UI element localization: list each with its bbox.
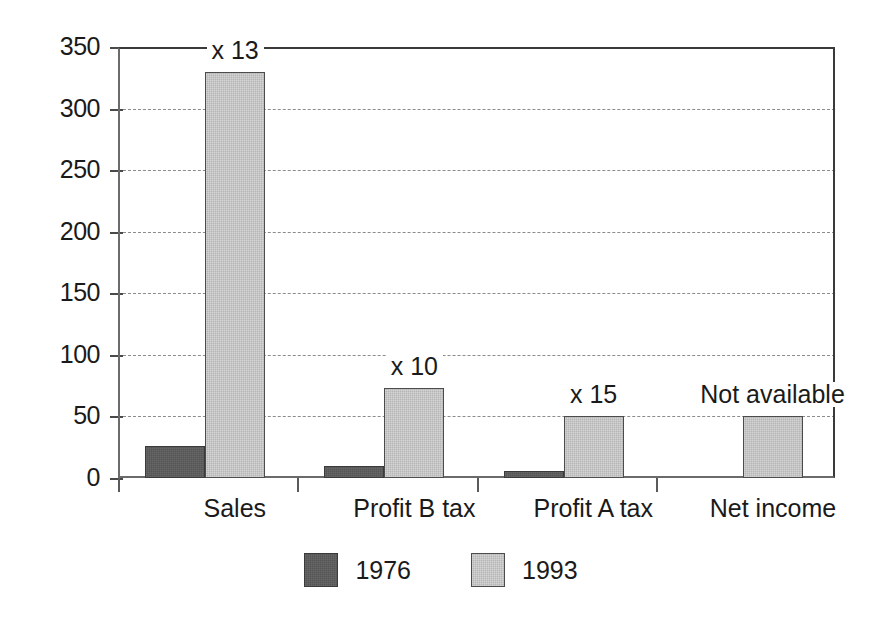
y-axis-tick-label: 0 <box>28 465 100 490</box>
y-axis-tick-label: 50 <box>28 403 100 428</box>
bar-1976-profit-a-tax <box>504 471 564 478</box>
bar-annotation: x 15 <box>565 382 622 407</box>
x-axis-label-net-income: Net income <box>710 494 836 522</box>
bar-1993-sales <box>205 72 265 478</box>
bar-1976-sales <box>145 446 205 478</box>
x-axis-tick <box>297 478 299 492</box>
legend-item-1993: 1993 <box>471 553 578 587</box>
bar-1993-profit-a-tax <box>564 416 624 478</box>
y-axis-tick-label: 200 <box>28 219 100 244</box>
bar-annotation: x 10 <box>386 354 443 379</box>
bar-1993-profit-b-tax <box>384 388 444 478</box>
bar-chart: 350300250200150100500 x 13x 10x 15Not av… <box>0 0 882 633</box>
bar-annotation: Not available <box>695 382 850 407</box>
y-axis-tick <box>110 478 123 480</box>
legend-swatch-1976 <box>304 553 338 587</box>
y-axis-tick-label: 350 <box>28 34 100 59</box>
y-axis-tick-label: 100 <box>28 342 100 367</box>
y-axis-tick-label: 150 <box>28 280 100 305</box>
x-axis-tick <box>118 478 120 492</box>
bar-1993-net-income <box>743 416 803 478</box>
x-axis-label-profit-b-tax: Profit B tax <box>353 494 475 522</box>
x-axis-label-profit-a-tax: Profit A tax <box>534 494 654 522</box>
y-axis-tick-label: 300 <box>28 96 100 121</box>
legend-item-1976: 1976 <box>304 553 411 587</box>
legend-swatch-1993 <box>471 553 505 587</box>
y-axis-tick-label: 250 <box>28 157 100 182</box>
bar-1976-profit-b-tax <box>324 466 384 478</box>
x-axis-label-sales: Sales <box>204 494 267 522</box>
legend: 19761993 <box>0 553 882 587</box>
x-axis-tick <box>656 478 658 492</box>
bar-annotation: x 13 <box>207 38 264 63</box>
legend-label-1976: 1976 <box>355 558 411 583</box>
legend-label-1993: 1993 <box>522 558 578 583</box>
x-axis-tick <box>477 478 479 492</box>
